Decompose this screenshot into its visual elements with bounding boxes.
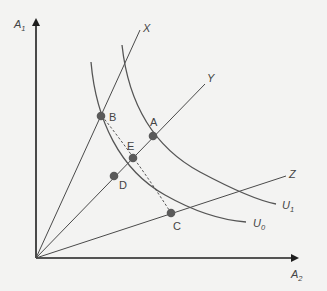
- label-ray-x: X: [142, 22, 151, 34]
- point-c: [167, 209, 176, 218]
- label-u1: U1: [282, 199, 294, 214]
- label-d: D: [119, 179, 127, 191]
- point-d: [110, 172, 119, 181]
- point-e: [129, 154, 138, 163]
- label-b: B: [109, 111, 116, 123]
- curve-u1: [122, 45, 276, 204]
- label-ray-z: Z: [288, 168, 297, 180]
- label-c: C: [173, 220, 181, 232]
- label-e: E: [127, 140, 134, 152]
- point-a: [149, 132, 158, 141]
- label-y-axis: A1: [13, 18, 26, 33]
- label-x-axis: A2: [290, 268, 303, 283]
- label-a: A: [150, 116, 158, 128]
- point-b: [97, 112, 106, 121]
- dashed-line-b-c: [102, 116, 171, 213]
- indifference-curve-diagram: B A E D C X Y Z U0 U1 A1 A2: [0, 0, 327, 291]
- ray-z: [36, 176, 286, 258]
- label-ray-y: Y: [207, 72, 215, 84]
- label-u0: U0: [253, 217, 266, 232]
